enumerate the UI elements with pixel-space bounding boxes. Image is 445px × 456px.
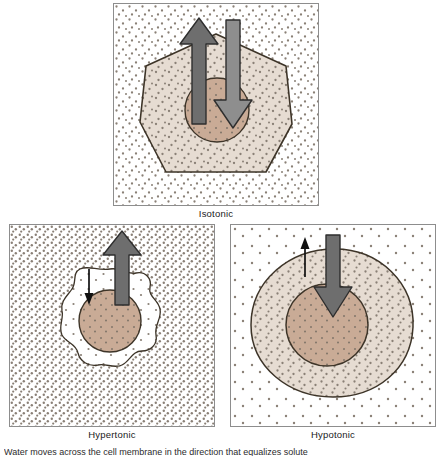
osmosis-figure: Isotonic — [0, 0, 445, 456]
panel-hypotonic — [230, 224, 436, 427]
hypotonic-diagram — [231, 225, 435, 426]
caption-hypotonic: Hypotonic — [230, 429, 436, 440]
caption-isotonic: Isotonic — [113, 208, 319, 219]
hypertonic-diagram — [10, 225, 214, 426]
figure-bottom-caption: Water moves across the cell membrane in … — [4, 447, 441, 456]
caption-hypertonic: Hypertonic — [9, 429, 215, 440]
panel-isotonic — [113, 3, 319, 206]
isotonic-diagram — [114, 4, 318, 205]
panel-hypertonic — [9, 224, 215, 427]
